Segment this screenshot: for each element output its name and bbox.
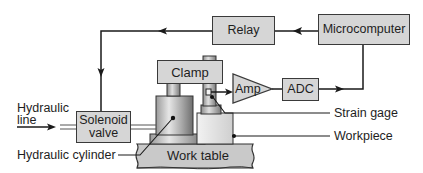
solenoid-label-line2: valve	[89, 127, 118, 140]
work-table-label: Work table	[167, 149, 229, 163]
microcomputer-label: Microcomputer	[323, 23, 406, 36]
hydraulic-line-label-2: line	[17, 113, 36, 127]
hydraulic-cylinder-label: Hydraulic cylinder	[17, 148, 116, 162]
solenoid-valve-block: Solenoid valve	[76, 111, 131, 143]
strain-gage-label: Strain gage	[334, 106, 398, 120]
clamp-label: Clamp	[171, 66, 209, 79]
microcomputer-block: Microcomputer	[318, 14, 410, 45]
relay-block: Relay	[212, 16, 275, 45]
clamp-block: Clamp	[157, 60, 223, 84]
strain-gage-element	[206, 89, 211, 95]
relay-label: Relay	[228, 24, 260, 37]
workpiece-label: Workpiece	[334, 129, 393, 143]
adc-label: ADC	[287, 83, 313, 96]
diagram-canvas: Relay Microcomputer Clamp ADC Solenoid v…	[0, 0, 423, 173]
hydraulic-cylinder-shape	[156, 96, 193, 135]
amp-label: Amp	[235, 82, 261, 96]
workpiece-shape	[197, 113, 233, 144]
adc-block: ADC	[282, 78, 319, 101]
